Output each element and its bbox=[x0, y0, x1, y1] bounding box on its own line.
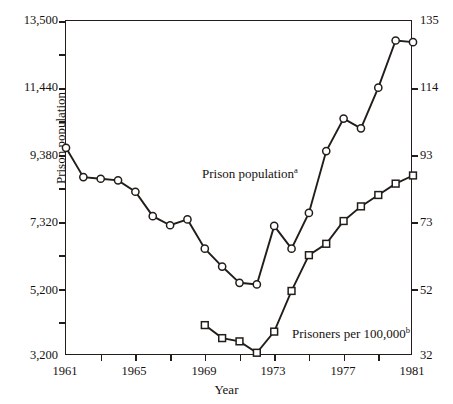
data-point-circle bbox=[375, 84, 382, 91]
x-axis-tick-label: 1969 bbox=[181, 364, 227, 379]
data-point-circle bbox=[184, 216, 191, 223]
data-point-square bbox=[375, 192, 382, 199]
data-point-circle bbox=[271, 222, 278, 229]
y-axis-right-tick-label: 114 bbox=[420, 80, 438, 95]
annotation-footnote-marker: b bbox=[406, 325, 410, 335]
data-point-square bbox=[410, 172, 417, 179]
y-axis-left-tick bbox=[59, 289, 66, 291]
y-axis-right-tick-label: 135 bbox=[420, 13, 439, 28]
data-point-circle bbox=[340, 115, 347, 122]
y-axis-left-tick bbox=[59, 222, 66, 224]
y-axis-left-minor-tick bbox=[59, 54, 66, 56]
series-line-1 bbox=[66, 41, 413, 285]
data-point-circle bbox=[80, 174, 87, 181]
y-axis-left-minor-tick bbox=[59, 255, 66, 257]
data-point-square bbox=[306, 252, 313, 259]
y-axis-right-tick-label: 32 bbox=[420, 348, 433, 363]
y-axis-left-tick bbox=[59, 21, 66, 23]
annotation-footnote-marker: a bbox=[294, 165, 298, 175]
data-point-circle bbox=[392, 37, 399, 44]
data-point-circle bbox=[167, 222, 174, 229]
data-point-square bbox=[219, 335, 226, 342]
data-point-circle bbox=[149, 213, 156, 220]
y-axis-left-tick-label: 7,320 bbox=[2, 215, 58, 230]
y-axis-left-tick-label: 11,440 bbox=[2, 80, 58, 95]
data-series-layer bbox=[66, 21, 413, 356]
data-point-circle bbox=[114, 177, 121, 184]
y-axis-left-tick bbox=[59, 155, 66, 157]
y-axis-left-tick-label: 13,500 bbox=[2, 13, 58, 28]
data-point-circle bbox=[357, 125, 364, 132]
y-axis-left-tick-label: 9,380 bbox=[2, 148, 58, 163]
y-axis-left-minor-tick bbox=[59, 188, 66, 190]
y-axis-right-tick-label: 52 bbox=[420, 283, 433, 298]
data-point-circle bbox=[132, 188, 139, 195]
x-axis-tick-label: 1973 bbox=[250, 364, 296, 379]
data-point-square bbox=[358, 203, 365, 210]
series-annotation-prisoners-per-100000: Prisoners per 100,000b bbox=[292, 325, 410, 342]
data-point-square bbox=[392, 180, 399, 187]
data-point-circle bbox=[288, 245, 295, 252]
data-point-circle bbox=[409, 39, 416, 46]
x-axis-tick-label: 1981 bbox=[389, 364, 435, 379]
y-axis-left-minor-tick bbox=[59, 322, 66, 324]
data-point-square bbox=[340, 218, 347, 225]
data-point-circle bbox=[219, 263, 226, 270]
data-point-square bbox=[271, 328, 278, 335]
x-axis-tick-label: 1965 bbox=[111, 364, 157, 379]
plot-area: Prison populationa Prisoners per 100,000… bbox=[65, 20, 412, 355]
annotation-text: Prison population bbox=[202, 166, 294, 181]
x-axis-tick-label: 1977 bbox=[320, 364, 366, 379]
series-annotation-prison-population: Prison populationa bbox=[202, 165, 298, 182]
data-point-square bbox=[236, 338, 243, 345]
data-point-square bbox=[253, 349, 260, 356]
data-point-circle bbox=[62, 144, 69, 151]
y-axis-right-tick-label: 73 bbox=[420, 215, 433, 230]
data-point-circle bbox=[253, 281, 260, 288]
chart-figure: 13,500 11,440 9,380 7,320 5,200 3,200 13… bbox=[0, 0, 453, 404]
y-axis-left-tick-label: 3,200 bbox=[2, 348, 58, 363]
x-axis-title: Year bbox=[0, 382, 453, 398]
data-point-square bbox=[201, 322, 208, 329]
annotation-text: Prisoners per 100,000 bbox=[292, 326, 406, 341]
data-point-circle bbox=[323, 148, 330, 155]
data-point-circle bbox=[236, 279, 243, 286]
data-point-circle bbox=[305, 209, 312, 216]
x-axis-tick-label: 1961 bbox=[42, 364, 88, 379]
y-axis-left-tick bbox=[59, 88, 66, 90]
data-point-square bbox=[288, 288, 295, 295]
y-axis-right-tick-label: 93 bbox=[420, 148, 433, 163]
data-point-circle bbox=[201, 245, 208, 252]
y-axis-left-minor-tick bbox=[59, 121, 66, 123]
data-point-circle bbox=[97, 175, 104, 182]
data-point-square bbox=[323, 240, 330, 247]
y-axis-left-tick-label: 5,200 bbox=[2, 283, 58, 298]
